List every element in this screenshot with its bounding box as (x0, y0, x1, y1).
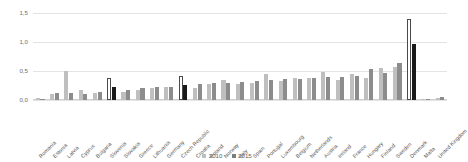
bar-groups (33, 13, 447, 100)
bar-2015 (126, 90, 130, 100)
bar-2010 (236, 84, 240, 100)
bar-2015 (169, 87, 173, 100)
bar-2010 (36, 98, 40, 100)
bar-2015 (212, 83, 216, 100)
bar-2015 (83, 94, 87, 100)
y-axis-tick-label: 0,5 (0, 68, 28, 74)
bar-group (347, 13, 361, 100)
bar-group (104, 13, 118, 100)
plot-area (33, 13, 447, 100)
bar-2010 (364, 78, 368, 100)
bar-group (276, 13, 290, 100)
bar-group (133, 13, 147, 100)
y-axis-tick-label: 1,0 (0, 39, 28, 45)
bar-2010 (436, 98, 440, 100)
bar-2010 (121, 92, 125, 100)
bar-group (90, 13, 104, 100)
bar-2015 (412, 44, 416, 100)
bar-2015 (397, 63, 401, 100)
legend-item[interactable]: 2015 (232, 152, 252, 159)
bar-2010 (64, 71, 68, 100)
bar-group (33, 13, 47, 100)
bar-group (219, 13, 233, 100)
bar-group (47, 13, 61, 100)
x-axis-labels: RomaniaEstoniaLatviaCyprusBulgariaSloven… (33, 101, 447, 159)
bar-2010 (250, 83, 254, 100)
bar-2010 (421, 99, 425, 100)
y-axis-tick-label: 1,5 (0, 10, 28, 16)
bar-2015 (69, 93, 73, 100)
bar-group (404, 13, 418, 100)
y-axis-tick-label: 0,0 (0, 97, 28, 103)
bar-2010 (193, 88, 197, 100)
bar-2015 (383, 73, 387, 100)
bar-2010 (207, 84, 211, 100)
bar-2015 (255, 81, 259, 100)
bar-group (376, 13, 390, 100)
bar-group (361, 13, 375, 100)
bar-group (204, 13, 218, 100)
bar-2010 (350, 74, 354, 100)
bar-2015 (340, 77, 344, 100)
bar-2015 (226, 83, 230, 100)
bar-2010 (107, 78, 111, 100)
bar-2010 (279, 81, 283, 100)
bar-group (333, 13, 347, 100)
bar-group (433, 13, 447, 100)
bar-2010 (379, 68, 383, 100)
bar-2010 (307, 78, 311, 100)
bar-2010 (293, 78, 297, 100)
legend-label: 2010 (209, 152, 223, 159)
bar-2015 (283, 79, 287, 100)
chart-legend: 20102015 (0, 152, 454, 159)
bar-2015 (426, 99, 430, 100)
bar-2015 (369, 69, 373, 100)
bar-2015 (40, 99, 44, 100)
bar-2015 (55, 93, 59, 100)
bar-group (247, 13, 261, 100)
bar-2015 (183, 85, 187, 100)
bar-2010 (321, 72, 325, 100)
bar-2010 (407, 19, 411, 100)
bar-2015 (312, 78, 316, 100)
bar-2010 (336, 80, 340, 100)
bar-2010 (221, 80, 225, 100)
bar-group (147, 13, 161, 100)
bar-2010 (136, 90, 140, 100)
bar-group (162, 13, 176, 100)
bar-2015 (269, 80, 273, 100)
bar-2010 (93, 93, 97, 100)
bar-2015 (240, 82, 244, 100)
legend-swatch-icon (232, 154, 236, 158)
bar-group (62, 13, 76, 100)
legend-swatch-icon (202, 154, 206, 158)
bar-2010 (164, 87, 168, 100)
bar-2015 (355, 76, 359, 100)
bar-2015 (440, 97, 444, 100)
bar-2015 (98, 92, 102, 100)
bar-2010 (50, 94, 54, 100)
bar-group (119, 13, 133, 100)
bar-2015 (112, 87, 116, 100)
bar-group (76, 13, 90, 100)
bar-group (176, 13, 190, 100)
bar-group (233, 13, 247, 100)
bar-2010 (179, 76, 183, 100)
bar-group (290, 13, 304, 100)
bar-group (419, 13, 433, 100)
bar-2010 (150, 88, 154, 100)
bar-2015 (155, 87, 159, 100)
bar-2015 (140, 88, 144, 100)
legend-item[interactable]: 2010 (202, 152, 222, 159)
legend-label: 2015 (238, 152, 252, 159)
bar-2015 (198, 84, 202, 100)
bar-2015 (326, 77, 330, 100)
bar-group (390, 13, 404, 100)
bar-2010 (393, 67, 397, 100)
bar-2010 (79, 90, 83, 100)
bar-2010 (264, 74, 268, 100)
bar-group (190, 13, 204, 100)
bar-group (262, 13, 276, 100)
bar-2015 (298, 79, 302, 100)
